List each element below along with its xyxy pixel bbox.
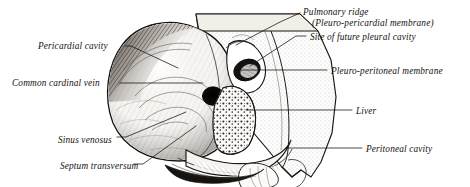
- label-pulmonary-ridge-main: Pulmonary ridge: [303, 7, 369, 17]
- anatomical-figure: Pericardial cavity Common cardinal vein …: [0, 0, 470, 187]
- label-common-cardinal-vein: Common cardinal vein: [12, 78, 100, 89]
- label-pleuro-pericardial-membrane: (Pleuro-pericardial membrane): [303, 18, 434, 29]
- label-sinus-venosus: Sinus venosus: [58, 135, 112, 146]
- label-septum-transversum: Septum transversum: [60, 161, 138, 172]
- label-pleuro-peritoneal-membrane: Pleuro-peritoneal membrane: [331, 66, 443, 77]
- label-site-of-future-pleural-cavity: Site of future pleural cavity: [310, 32, 416, 43]
- label-pericardial-cavity: Pericardial cavity: [38, 41, 108, 52]
- label-peritoneal-cavity: Peritoneal cavity: [366, 144, 432, 155]
- label-liver: Liver: [356, 106, 376, 117]
- label-pulmonary-ridge: Pulmonary ridge (Pleuro-pericardial memb…: [303, 7, 434, 28]
